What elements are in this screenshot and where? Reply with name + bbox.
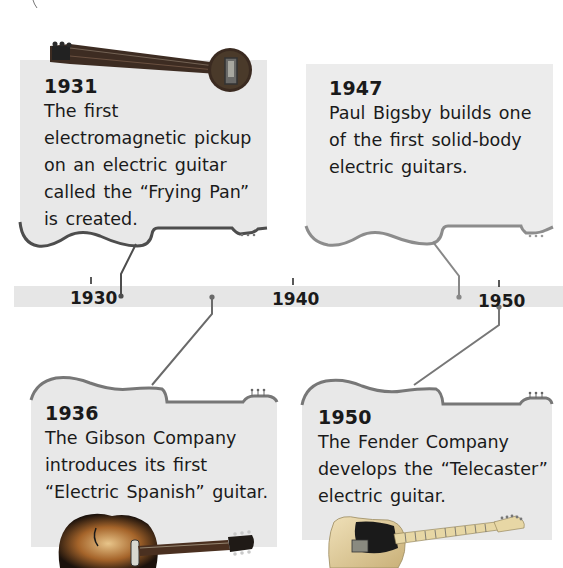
- event-1936: 1936 The Gibson Company introduces its f…: [45, 401, 280, 506]
- connector-1936: [152, 294, 215, 385]
- connector-1950: [414, 304, 502, 385]
- event-1947: 1947 Paul Bigsby builds one of the first…: [329, 76, 547, 181]
- event-year: 1947: [329, 76, 547, 100]
- stray-mark: [33, 0, 37, 8]
- event-description: The Gibson Company introduces its first …: [45, 425, 280, 506]
- event-year: 1931: [44, 74, 266, 98]
- event-description: The Fender Company develops the “Telecas…: [318, 429, 550, 510]
- axis-label-1950: 1950: [478, 291, 525, 311]
- guitar-timeline-diagram: 1930 1940 1950 1931 The first electromag…: [0, 0, 563, 568]
- axis-label-1930: 1930: [70, 288, 117, 308]
- event-1950: 1950 The Fender Company develops the “Te…: [318, 405, 550, 510]
- event-year: 1936: [45, 401, 280, 425]
- event-1931: 1931 The first electromagnetic pickup on…: [44, 74, 266, 233]
- axis-label-1940: 1940: [272, 289, 319, 309]
- event-year: 1950: [318, 405, 550, 429]
- event-description: Paul Bigsby builds one of the first soli…: [329, 100, 547, 181]
- event-description: The first electromagnetic pickup on an e…: [44, 98, 266, 233]
